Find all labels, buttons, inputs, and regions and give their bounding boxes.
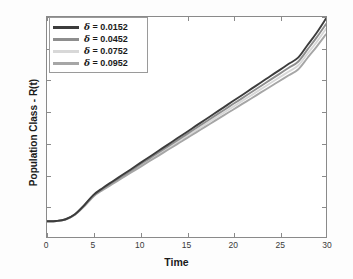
x-axis-title: Time [0,256,353,268]
delta-symbol: δ [84,46,90,56]
x-tick-mark [188,17,189,21]
y-tick-mark [322,112,326,113]
x-tick-mark [234,233,235,237]
legend-item-label: δ = 0.0752 [84,47,128,56]
x-tick-mark [234,17,235,21]
legend-item-label: δ = 0.0452 [84,35,128,44]
x-tick-label: 15 [167,240,207,250]
delta-symbol: δ [84,58,90,68]
y-tick-mark [47,207,51,208]
legend-item[interactable]: δ = 0.0752 [53,45,143,57]
delta-symbol: δ [84,22,90,32]
legend-item[interactable]: δ = 0.0152 [53,21,143,33]
x-tick-label: 20 [213,240,253,250]
figure-canvas: 0.20.40.60.811.21.41.6 051015202530 Popu… [0,0,353,279]
y-axis-title: Population Class - R(t) [28,48,39,218]
legend-item[interactable]: δ = 0.0952 [53,57,143,69]
legend-color-swatch [53,62,79,65]
delta-symbol: δ [84,34,90,44]
x-tick-label: 25 [260,240,300,250]
x-tick-mark [281,17,282,21]
y-tick-mark [47,176,51,177]
x-tick-mark [141,233,142,237]
legend-color-swatch [53,50,79,53]
x-tick-mark [281,233,282,237]
y-tick-mark [322,207,326,208]
x-tick-mark [47,17,48,21]
y-tick-mark [322,17,326,18]
y-tick-mark [322,49,326,50]
legend-color-swatch [53,38,79,41]
legend-item-label: δ = 0.0152 [84,23,128,32]
x-tick-mark [47,233,48,237]
legend-color-swatch [53,26,79,29]
legend-box: δ = 0.0152δ = 0.0452δ = 0.0752δ = 0.0952 [49,17,148,73]
x-tick-mark [94,233,95,237]
x-tick-label: 30 [307,240,347,250]
legend-item[interactable]: δ = 0.0452 [53,33,143,45]
x-tick-label: 0 [26,240,66,250]
y-tick-mark [322,176,326,177]
y-tick-mark [47,80,51,81]
x-tick-label: 5 [73,240,113,250]
y-tick-mark [47,112,51,113]
x-tick-mark [188,233,189,237]
y-tick-mark [322,80,326,81]
x-tick-label: 10 [120,240,160,250]
legend-item-label: δ = 0.0952 [84,59,128,68]
y-tick-mark [47,144,51,145]
y-tick-mark [322,144,326,145]
